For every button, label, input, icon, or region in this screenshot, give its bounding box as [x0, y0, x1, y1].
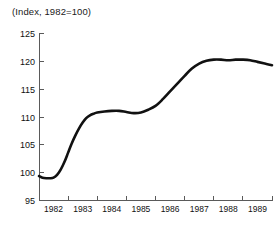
x-axis-group: 1982 1983 1984 1985 1986 1987 1988 1989 — [39, 196, 272, 215]
y-tick-label: 110 — [21, 113, 35, 123]
data-series-line — [39, 60, 272, 179]
x-tick-label: 1989 — [248, 204, 267, 214]
x-tick-label: 1985 — [131, 204, 150, 214]
chart-container: (Index, 1982=100) 125 120 115 110 105 10… — [0, 0, 280, 231]
y-tick-label: 115 — [21, 85, 35, 95]
chart-plot-area: 125 120 115 110 105 100 95 — [0, 0, 280, 231]
y-tick-labels: 125 120 115 110 105 100 95 — [20, 29, 35, 206]
y-tick-label: 105 — [20, 140, 35, 150]
y-tick-label: 100 — [20, 168, 35, 178]
x-tick-label: 1983 — [73, 204, 92, 214]
x-tick-label: 1988 — [219, 204, 238, 214]
x-tick-labels: 1982 1983 1984 1985 1986 1987 1988 1989 — [44, 204, 267, 214]
x-tick-label: 1987 — [190, 204, 209, 214]
x-tick-label: 1982 — [44, 204, 63, 214]
y-tick-label: 95 — [25, 196, 35, 206]
y-tick-label: 120 — [20, 57, 35, 67]
y-axis-group: 125 120 115 110 105 100 95 — [20, 29, 44, 206]
y-tick-label: 125 — [20, 29, 35, 39]
x-tick-marks — [39, 196, 272, 201]
x-tick-label: 1986 — [161, 204, 180, 214]
x-tick-label: 1984 — [102, 204, 121, 214]
